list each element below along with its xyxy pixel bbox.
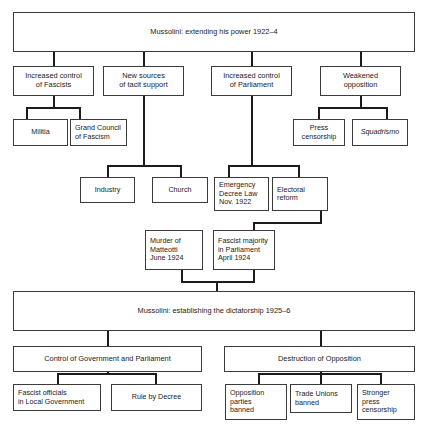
connector-tacit-stem <box>143 95 145 167</box>
connector-banner1-to-increased-parliament <box>251 51 253 66</box>
node-opposition-parties-banned: Opposition parties banned <box>225 384 287 420</box>
node-label: Control of Government and Parliament <box>14 355 201 364</box>
connector-weakened-bar <box>318 107 388 109</box>
node-label: Grand Council of Fascism <box>71 124 126 141</box>
node-label: Industry <box>81 186 134 194</box>
node-label: Squadrismo <box>353 128 407 136</box>
node-banner-extending-power: Mussolini: extending his power 1922–4 <box>13 12 415 52</box>
node-trade-unions-banned: Trade Unions banned <box>290 384 352 413</box>
node-label: Increased control of Parliament <box>212 72 291 89</box>
node-destruction-of-opposition: Destruction of Opposition <box>224 346 415 372</box>
node-grand-council-of-fascism: Grand Council of Fascism <box>70 119 127 146</box>
node-increased-control-of-parliament: Increased control of Parliament <box>211 66 292 96</box>
connector-parliament-stem <box>251 95 253 167</box>
flowchart-diagram: Mussolini: extending his power 1922–4 In… <box>0 0 427 430</box>
node-label: Electoral reform <box>273 186 327 203</box>
node-fascist-majority-in-parliament: Fascist majority in Parliament April 192… <box>213 230 275 270</box>
node-control-of-government-and-parliament: Control of Government and Parliament <box>13 346 202 372</box>
node-label: Rule by Decree <box>112 393 201 401</box>
connector-tacit-bar <box>107 165 182 167</box>
connector-banner1-to-weakened-opposition <box>360 51 362 66</box>
node-press-censorship: Press censorship <box>293 119 345 146</box>
connector-banner1-to-new-sources <box>143 51 145 66</box>
node-label: Press censorship <box>294 124 344 141</box>
node-murder-of-matteotti: Murder of Matteotti June 1924 <box>145 230 203 270</box>
connector-merge-to-banner2 <box>216 281 218 291</box>
node-squadrismo: Squadrismo <box>352 119 408 146</box>
node-label: Fascist officials in Local Government <box>14 389 100 406</box>
node-militia: Militia <box>13 119 68 146</box>
node-label: Weakened opposition <box>321 72 400 89</box>
connector-fascists-bar <box>26 107 81 109</box>
node-label: Mussolini: establishing the dictatorship… <box>14 307 414 316</box>
node-label: New sources of tacit support <box>104 72 183 89</box>
node-label: Fascist majority in Parliament April 192… <box>214 237 274 262</box>
node-increased-control-of-fascists: Increased control of Fascists <box>13 66 94 96</box>
connector-electoral-elbow <box>253 222 322 224</box>
connector-control-gov-bar <box>57 373 157 375</box>
node-fascist-officials-in-local-government: Fascist officials in Local Government <box>13 384 101 411</box>
node-label: Trade Unions banned <box>291 390 351 407</box>
node-stronger-press-censorship: Stronger press censorship <box>357 384 415 420</box>
connector-banner2-to-destruction-opposition <box>320 330 322 346</box>
node-label: Opposition parties banned <box>226 389 286 414</box>
node-new-sources-of-tacit-support: New sources of tacit support <box>103 66 184 96</box>
connector-banner1-to-increased-fascists <box>53 51 55 66</box>
connector-parliament-bar <box>228 165 300 167</box>
node-label: Murder of Matteotti June 1924 <box>146 237 202 262</box>
node-church: Church <box>152 177 208 203</box>
node-industry: Industry <box>80 177 135 203</box>
node-electoral-reform: Electoral reform <box>272 177 328 211</box>
node-weakened-opposition: Weakened opposition <box>320 66 401 96</box>
node-label: Destruction of Opposition <box>225 355 414 364</box>
node-label: Militia <box>14 128 67 136</box>
node-label: Increased control of Fascists <box>14 72 93 89</box>
node-label: Stronger press censorship <box>358 389 414 414</box>
node-label: Mussolini: extending his power 1922–4 <box>14 28 414 37</box>
node-banner-establishing-dictatorship: Mussolini: establishing the dictatorship… <box>13 291 415 331</box>
connector-banner2-to-control-government <box>107 330 109 346</box>
connector-elbow-to-fascist-majority <box>253 222 255 230</box>
node-label: Church <box>153 186 207 194</box>
node-emergency-decree-law: Emergency Decree Law Nov. 1922 <box>214 177 269 211</box>
node-label: Emergency Decree Law Nov. 1922 <box>215 181 268 206</box>
node-rule-by-decree: Rule by Decree <box>111 384 202 411</box>
